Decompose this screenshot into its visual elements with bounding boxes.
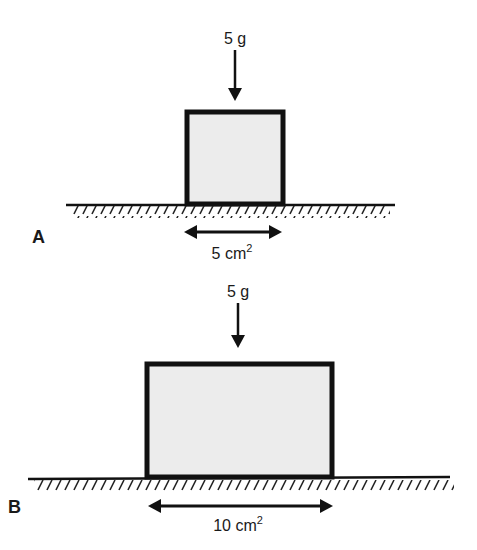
area-arrow-b	[148, 499, 333, 513]
block-a	[187, 112, 283, 204]
force-label-b: 5 g	[227, 283, 249, 300]
area-label-b: 10 cm2	[213, 514, 263, 534]
force-label-a: 5 g	[224, 30, 246, 47]
panel-label-b: B	[8, 497, 21, 517]
ground-a	[66, 205, 395, 218]
panel-b: 5 g B 10 cm2	[8, 283, 454, 534]
panel-label-a: A	[32, 227, 45, 247]
force-arrow-a	[228, 50, 242, 101]
pressure-diagram: 5 g A 5 cm2 5 g B	[0, 0, 477, 550]
force-arrow-b	[231, 303, 245, 348]
area-arrow-a	[184, 225, 282, 239]
block-b	[147, 364, 332, 477]
area-label-a: 5 cm2	[212, 242, 253, 262]
panel-a: 5 g A 5 cm2	[32, 30, 395, 262]
